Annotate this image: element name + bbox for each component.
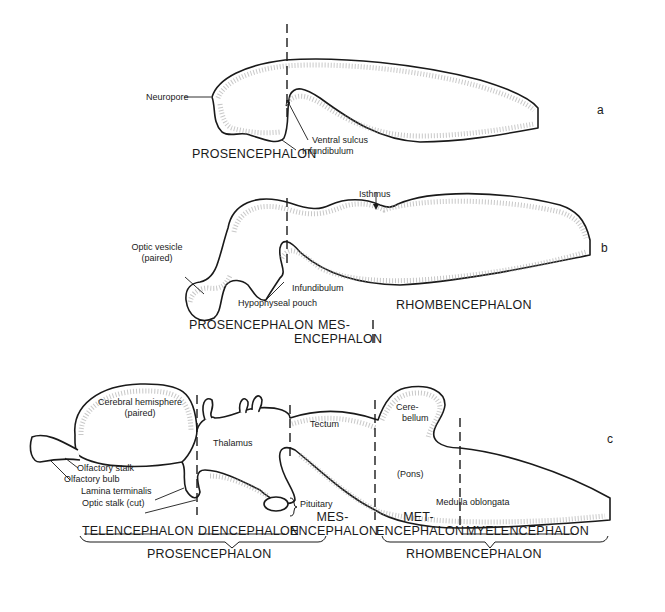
- region-mesencephalon-c-1: MES-: [290, 510, 375, 524]
- label-cerebral-hemisphere: Cerebral hemisphere: [90, 397, 190, 407]
- panel-letter-b: b: [601, 241, 608, 255]
- ventral-sulcus-arrow: [287, 100, 308, 140]
- region-prosencephalon-c: PROSENCEPHALON: [147, 547, 271, 561]
- region-mesencephalon-b-1: MES-: [294, 318, 374, 332]
- label-optic-stalk: Optic stalk (cut): [82, 498, 145, 508]
- lamina-terminalis-leader: [155, 488, 184, 500]
- label-pons: (Pons): [397, 469, 424, 479]
- region-mesencephalon-c-2: ENCEPHALON: [290, 524, 375, 538]
- region-rhombencephalon-c: RHOMBENCEPHALON: [406, 547, 542, 561]
- label-isthmus: Isthmus: [359, 189, 391, 199]
- label-ventral-sulcus: Ventral sulcus: [312, 135, 368, 145]
- label-optic-vesicle-paired: (paired): [122, 253, 192, 263]
- label-olfactory-stalk: Olfactory stalk: [77, 463, 134, 473]
- region-diencephalon: DIENCEPHALON: [198, 524, 299, 538]
- region-prosencephalon-a: PROSENCEPHALON: [192, 147, 316, 161]
- label-pituitary: Pituitary: [300, 499, 333, 509]
- label-cerebellum-1: Cere-: [396, 402, 419, 412]
- label-cerebral-hemisphere-paired: (paired): [90, 408, 190, 418]
- label-thalamus: Thalamus: [213, 438, 253, 448]
- label-infundibulum-b: Infundibulum: [292, 283, 344, 293]
- label-cerebellum-2: bellum: [402, 413, 429, 423]
- label-optic-vesicle: Optic vesicle: [122, 242, 192, 252]
- region-metencephalon-2: ENCEPHALON: [376, 524, 461, 538]
- label-lamina-terminalis: Lamina terminalis: [81, 486, 152, 496]
- panel-letter-c: c: [607, 432, 613, 446]
- label-hypophyseal-pouch: Hypophyseal pouch: [238, 298, 317, 308]
- label-tectum: Tectum: [310, 419, 339, 429]
- optic-stalk-leader: [145, 500, 196, 513]
- label-medulla-oblongata: Medulla oblongata: [436, 497, 510, 507]
- label-neuropore: Neuropore: [146, 92, 189, 102]
- region-myelencephalon: MYELENCEPHALON: [466, 524, 589, 538]
- panel-letter-a: a: [597, 103, 604, 117]
- region-mesencephalon-b-2: ENCEPHALON: [294, 332, 374, 346]
- region-telencephalon: TELENCEPHALON: [82, 524, 194, 538]
- region-metencephalon-1: MET-: [376, 510, 461, 524]
- region-rhombencephalon-b: RHOMBENCEPHALON: [396, 298, 532, 312]
- panel-a-neural-tube: [184, 24, 538, 150]
- label-olfactory-bulb: Olfactory bulb: [64, 474, 120, 484]
